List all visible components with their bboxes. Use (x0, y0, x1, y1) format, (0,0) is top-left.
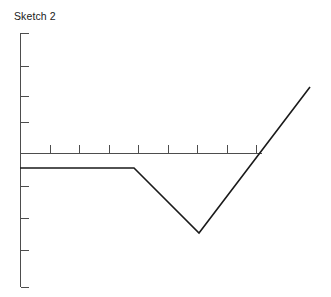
x-axis-group (20, 145, 262, 154)
sketch-plot-canvas (0, 0, 331, 297)
data-series-line (20, 87, 310, 233)
sketch-chart-app: Sketch 2 (0, 0, 331, 297)
y-axis-group (21, 33, 30, 288)
